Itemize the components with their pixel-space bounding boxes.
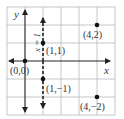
point-4-minus-2	[95, 95, 100, 100]
label-origin: (0,0)	[10, 65, 29, 77]
label-4-2: (4,2)	[83, 29, 102, 41]
point-origin	[23, 59, 28, 64]
point-1-minus-1	[41, 77, 46, 82]
label-line-equation: x = 1	[32, 33, 42, 53]
y-axis-label: y	[13, 8, 19, 20]
x-axis-label: x	[103, 64, 109, 76]
graph-svg: y x (0,0) (1,1) (1,−1) (4,2) (4,−2) x = …	[0, 0, 124, 119]
coordinate-plane-figure: y x (0,0) (1,1) (1,−1) (4,2) (4,−2) x = …	[0, 0, 124, 119]
label-4-minus-2: (4,−2)	[80, 101, 105, 113]
label-1-1: (1,1)	[46, 45, 65, 57]
point-4-2	[95, 23, 100, 28]
label-1-minus-1: (1,−1)	[46, 83, 71, 95]
